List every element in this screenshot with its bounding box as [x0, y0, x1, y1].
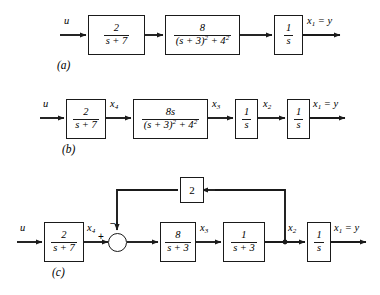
diagram-a-block-2: 8 (s + 3)2 + 42 — [165, 15, 240, 55]
diagram-b-block-4: 1 s — [287, 99, 310, 139]
block-numerator: 2 — [51, 230, 77, 242]
block-numerator: 1 — [231, 230, 257, 242]
diagram-b-signal-x4: x4 — [110, 99, 118, 110]
block-numerator: 2 — [104, 23, 130, 35]
diagram-c-block-4: 1 s — [307, 222, 331, 262]
diagram-b-block-3: 1 s — [235, 99, 258, 139]
diagram-b-signal-x3: x3 — [212, 99, 220, 110]
summing-junction-plus-sign: + — [98, 232, 104, 242]
block-numerator: 8 — [165, 230, 191, 242]
diagram-b-block-2: 8s (s + 3)2 + 42 — [133, 99, 208, 139]
diagram-c-signal-x3: x3 — [200, 223, 208, 234]
block-denominator: s — [294, 120, 303, 131]
block-denominator: (s + 3)2 + 42 — [174, 36, 231, 47]
block-denominator: s + 7 — [104, 36, 130, 47]
diagram-a-block-3: 1 s — [274, 15, 303, 55]
diagram-c-block-3: 1 s + 3 — [223, 222, 265, 262]
block-numerator: 2 — [73, 107, 99, 119]
block-denominator: s + 3 — [165, 243, 191, 254]
summing-junction — [108, 233, 127, 252]
block-denominator: s — [242, 120, 251, 131]
block-numerator: 8s — [142, 107, 199, 119]
block-denominator: (s + 3)2 + 42 — [142, 120, 199, 131]
diagram-c-output-label: x1 = y — [334, 223, 359, 234]
block-numerator: 8 — [174, 23, 231, 35]
block-denominator: s + 7 — [51, 243, 77, 254]
diagram-c-block-2: 8 s + 3 — [160, 222, 196, 262]
diagram-c-input-label: u — [20, 223, 25, 234]
diagram-a-input-label: u — [64, 16, 69, 27]
diagram-b-signal-x2: x2 — [263, 99, 271, 110]
block-denominator: s — [314, 243, 323, 254]
block-denominator: s + 3 — [231, 243, 257, 254]
diagram-a-block-1: 2 s + 7 — [88, 15, 145, 55]
block-numerator: 1 — [294, 107, 303, 119]
feedback-gain-value: 2 — [189, 184, 195, 196]
figure-canvas: 2 s + 7 8 (s + 3)2 + 42 1 s u x1 = y (a)… — [0, 0, 380, 295]
summing-junction-minus-sign: − — [110, 219, 116, 229]
diagram-c-block-1: 2 s + 7 — [44, 222, 84, 262]
diagram-c-feedback-gain-block: 2 — [180, 177, 204, 203]
block-denominator: s — [284, 36, 293, 47]
junction-dot-c — [283, 240, 288, 245]
block-denominator: s + 7 — [73, 120, 99, 131]
diagram-a-caption: (a) — [57, 60, 70, 72]
diagram-c-caption: (c) — [52, 267, 65, 279]
block-numerator: 1 — [242, 107, 251, 119]
diagram-c-signal-x4: x4 — [87, 223, 95, 234]
block-numerator: 1 — [314, 230, 323, 242]
diagram-b-input-label: u — [43, 99, 48, 110]
diagram-c-signal-x2: x2 — [288, 223, 296, 234]
block-numerator: 1 — [284, 23, 293, 35]
diagram-b-output-label: x1 = y — [313, 99, 338, 110]
diagram-a-output-label: x1 = y — [307, 16, 332, 27]
wire-c-feedback-left — [117, 190, 178, 226]
diagram-b-block-1: 2 s + 7 — [66, 99, 106, 139]
diagram-b-caption: (b) — [62, 144, 75, 156]
